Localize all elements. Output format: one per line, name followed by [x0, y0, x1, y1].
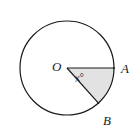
- label-point-a: A: [121, 62, 129, 75]
- circle-sector-diagram: [0, 0, 140, 132]
- geometry-figure: O A B x°: [0, 0, 140, 132]
- point-b-marker: [98, 102, 100, 104]
- label-center-o: O: [52, 60, 61, 73]
- label-angle-x: x°: [74, 71, 85, 83]
- point-a-marker: [113, 67, 115, 69]
- label-point-b: B: [103, 114, 111, 127]
